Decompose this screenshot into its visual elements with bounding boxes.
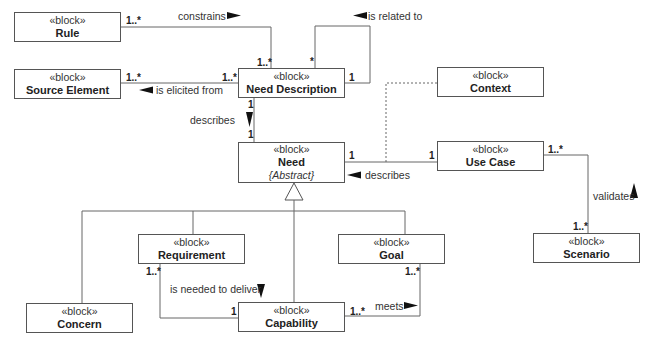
block-name: Need [278,156,305,169]
multiplicity: 1..* [126,72,141,83]
multiplicity: 1..* [350,306,365,317]
block-capability[interactable]: «block» Capability [238,302,345,332]
multiplicity: 1..* [222,72,237,83]
block-stereotype: «block» [472,143,508,156]
multiplicity: 1 [248,99,254,110]
block-source-element[interactable]: «block» Source Element [14,69,121,99]
multiplicity: 1..* [146,266,161,277]
multiplicity: 1..* [548,144,563,155]
block-stereotype: «block» [273,143,309,156]
multiplicity: 1..* [573,221,588,232]
multiplicity: * [310,56,314,67]
block-need-description[interactable]: «block» Need Description [238,68,345,98]
block-name: Scenario [563,248,609,261]
block-stereotype: «block» [173,236,209,249]
block-name: Goal [379,249,403,262]
is-related-to-label: is related to [368,10,422,22]
block-name: Capability [265,317,318,330]
block-stereotype: «block» [273,70,309,83]
generalization-triangle-icon [285,183,303,200]
block-name: Context [470,82,511,95]
block-name: Rule [56,27,80,40]
validates-label: validates [593,190,634,202]
multiplicity: 1 [349,72,355,83]
arrow-left-icon [353,12,367,19]
arrow-right-icon [404,302,418,309]
block-name: Requirement [158,249,225,262]
describes-use-case-label: describes [365,169,410,181]
block-goal[interactable]: «block» Goal [338,234,445,264]
arrow-down-icon [246,112,253,127]
multiplicity: 1 [349,150,355,161]
multiplicity: 1..* [126,15,141,26]
arrow-left-icon [139,87,153,94]
block-scenario[interactable]: «block» Scenario [533,233,640,263]
multiplicity: 1..* [405,266,420,277]
block-abstract-modifier: {Abstract} [269,169,315,182]
block-requirement[interactable]: «block» Requirement [138,234,245,264]
arrow-left-icon [347,172,361,179]
block-stereotype: «block» [472,69,508,82]
multiplicity: 1 [429,150,435,161]
block-stereotype: «block» [49,14,85,27]
block-stereotype: «block» [568,235,604,248]
block-need[interactable]: «block» Need {Abstract} [238,142,345,183]
multiplicity: 1 [231,306,237,317]
block-stereotype: «block» [61,305,97,318]
meets-label: meets [375,300,404,312]
block-stereotype: «block» [373,236,409,249]
constrains-connector [121,27,271,68]
describes-need-label: describes [190,114,235,126]
block-use-case[interactable]: «block» Use Case [437,141,544,171]
block-stereotype: «block» [49,71,85,84]
block-rule[interactable]: «block» Rule [14,12,121,42]
constrains-label: constrains [178,10,226,22]
block-context[interactable]: «block» Context [437,67,544,97]
block-concern[interactable]: «block» Concern [26,303,133,333]
block-name: Use Case [466,156,516,169]
is-elicited-from-label: is elicited from [156,84,223,96]
block-name: Concern [57,318,102,331]
arrow-right-icon [227,12,241,19]
multiplicity: 1 [248,129,254,140]
block-name: Source Element [26,84,109,97]
multiplicity: 1..* [257,57,272,68]
is-needed-to-deliver-label: is needed to deliver [170,283,261,295]
block-name: Need Description [246,83,336,96]
block-stereotype: «block» [273,304,309,317]
